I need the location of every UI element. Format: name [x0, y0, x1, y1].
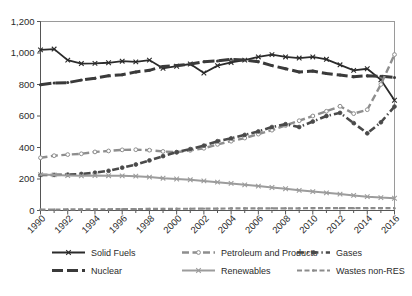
data-point-marker	[366, 207, 368, 209]
y-axis-tick-label: 0	[29, 205, 34, 216]
data-point-marker	[229, 136, 233, 140]
data-point-marker	[298, 207, 300, 209]
data-point-marker	[393, 76, 396, 79]
data-point-marker	[67, 269, 70, 272]
data-point-marker	[256, 130, 260, 134]
data-point-marker	[202, 144, 206, 148]
data-point-marker	[298, 70, 301, 73]
data-point-marker	[66, 81, 69, 84]
data-point-marker	[148, 148, 152, 152]
data-point-marker	[107, 169, 111, 173]
data-point-marker	[325, 109, 329, 113]
data-point-marker	[148, 159, 152, 163]
data-point-marker	[203, 207, 205, 209]
data-point-marker	[216, 207, 218, 209]
data-point-marker	[67, 208, 69, 210]
y-axis-tick-label: 400	[19, 142, 35, 153]
data-point-marker	[216, 139, 220, 143]
data-point-marker	[365, 131, 369, 135]
data-point-marker	[297, 125, 301, 129]
data-point-marker	[311, 70, 314, 73]
data-point-marker	[148, 69, 151, 72]
data-point-marker	[39, 156, 43, 160]
data-point-marker	[339, 74, 342, 77]
data-point-marker	[270, 125, 274, 129]
data-point-marker	[352, 207, 354, 209]
data-point-marker	[311, 114, 315, 118]
data-point-marker	[284, 67, 287, 70]
data-point-marker	[216, 59, 219, 62]
y-axis-tick-label: 200	[19, 173, 35, 184]
data-point-marker	[161, 150, 165, 154]
data-point-marker	[189, 208, 191, 210]
data-point-marker	[52, 154, 56, 158]
legend-label: Gases	[336, 248, 363, 258]
data-point-marker	[230, 207, 232, 209]
data-point-marker	[66, 153, 70, 157]
data-point-marker	[312, 269, 314, 271]
data-point-marker	[312, 207, 314, 209]
data-point-marker	[121, 73, 124, 76]
data-point-marker	[366, 74, 369, 77]
data-point-marker	[202, 60, 205, 63]
data-point-marker	[311, 120, 315, 124]
data-point-marker	[393, 207, 395, 209]
data-point-marker	[352, 75, 355, 78]
data-point-marker	[379, 120, 383, 124]
data-point-marker	[339, 207, 341, 209]
data-point-marker	[93, 77, 96, 80]
data-point-marker	[379, 75, 382, 78]
data-point-marker	[393, 53, 397, 57]
data-point-marker	[325, 72, 328, 75]
data-point-marker	[135, 208, 137, 210]
data-point-marker	[365, 108, 369, 112]
data-point-marker	[352, 112, 356, 116]
data-point-marker	[107, 74, 110, 77]
data-point-marker	[352, 121, 356, 125]
data-point-marker	[175, 208, 177, 210]
data-point-marker	[338, 104, 342, 108]
data-point-marker	[270, 64, 273, 67]
data-point-marker	[120, 166, 124, 170]
data-point-marker	[284, 122, 288, 126]
legend-label: Wastes non-RES	[336, 266, 405, 276]
data-point-marker	[80, 208, 82, 210]
data-point-marker	[230, 58, 233, 61]
data-point-marker	[107, 149, 111, 153]
data-point-marker	[257, 60, 260, 63]
y-axis-tick-label: 1,200	[11, 16, 35, 27]
data-point-marker	[175, 64, 178, 67]
data-point-marker	[39, 83, 42, 86]
data-point-marker	[312, 251, 316, 255]
data-point-marker	[134, 163, 138, 167]
data-point-marker	[107, 208, 109, 210]
data-point-marker	[325, 114, 329, 118]
data-point-marker	[271, 207, 273, 209]
y-axis-tick-label: 600	[19, 110, 35, 121]
data-point-marker	[379, 83, 383, 87]
y-axis-tick-label: 800	[19, 79, 35, 90]
legend-label: Renewables	[221, 266, 271, 276]
data-point-marker	[134, 148, 138, 152]
data-point-marker	[243, 59, 246, 62]
data-point-marker	[93, 150, 97, 154]
data-point-marker	[338, 111, 342, 115]
data-point-marker	[197, 251, 201, 255]
data-point-marker	[148, 208, 150, 210]
data-point-marker	[380, 207, 382, 209]
data-point-marker	[94, 208, 96, 210]
data-point-marker	[189, 63, 192, 66]
data-point-marker	[175, 150, 179, 154]
legend-label: Solid Fuels	[91, 248, 136, 258]
data-point-marker	[243, 133, 247, 137]
y-axis-tick-label: 1,000	[11, 47, 35, 58]
data-point-marker	[134, 70, 137, 73]
data-point-marker	[79, 152, 83, 156]
data-point-marker	[297, 119, 301, 123]
data-point-marker	[120, 148, 124, 152]
line-chart: 02004006008001,0001,200 1990199219941996…	[0, 0, 412, 296]
data-point-marker	[257, 207, 259, 209]
data-point-marker	[121, 208, 123, 210]
data-point-marker	[80, 79, 83, 82]
data-point-marker	[162, 65, 165, 68]
